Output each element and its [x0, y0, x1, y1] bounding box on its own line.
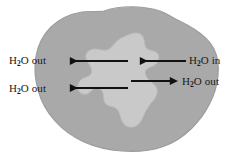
label-h2o-in-right: H2O in [189, 55, 220, 67]
label-rest: O out [21, 82, 46, 94]
label-h2o-out-right: H2O out [182, 76, 219, 88]
label-rest: O in [201, 54, 221, 66]
label-rest: O out [194, 75, 219, 87]
label-formula: H [9, 54, 17, 66]
label-h2o-out-upper-left: H2O out [9, 55, 46, 67]
label-h2o-out-lower-left: H2O out [9, 83, 46, 95]
label-formula: H [182, 75, 190, 87]
label-formula: H [9, 82, 17, 94]
water-flow-diagram: H2O out H2O out H2O in H2O out [0, 0, 245, 161]
label-rest: O out [21, 54, 46, 66]
label-formula: H [189, 54, 197, 66]
